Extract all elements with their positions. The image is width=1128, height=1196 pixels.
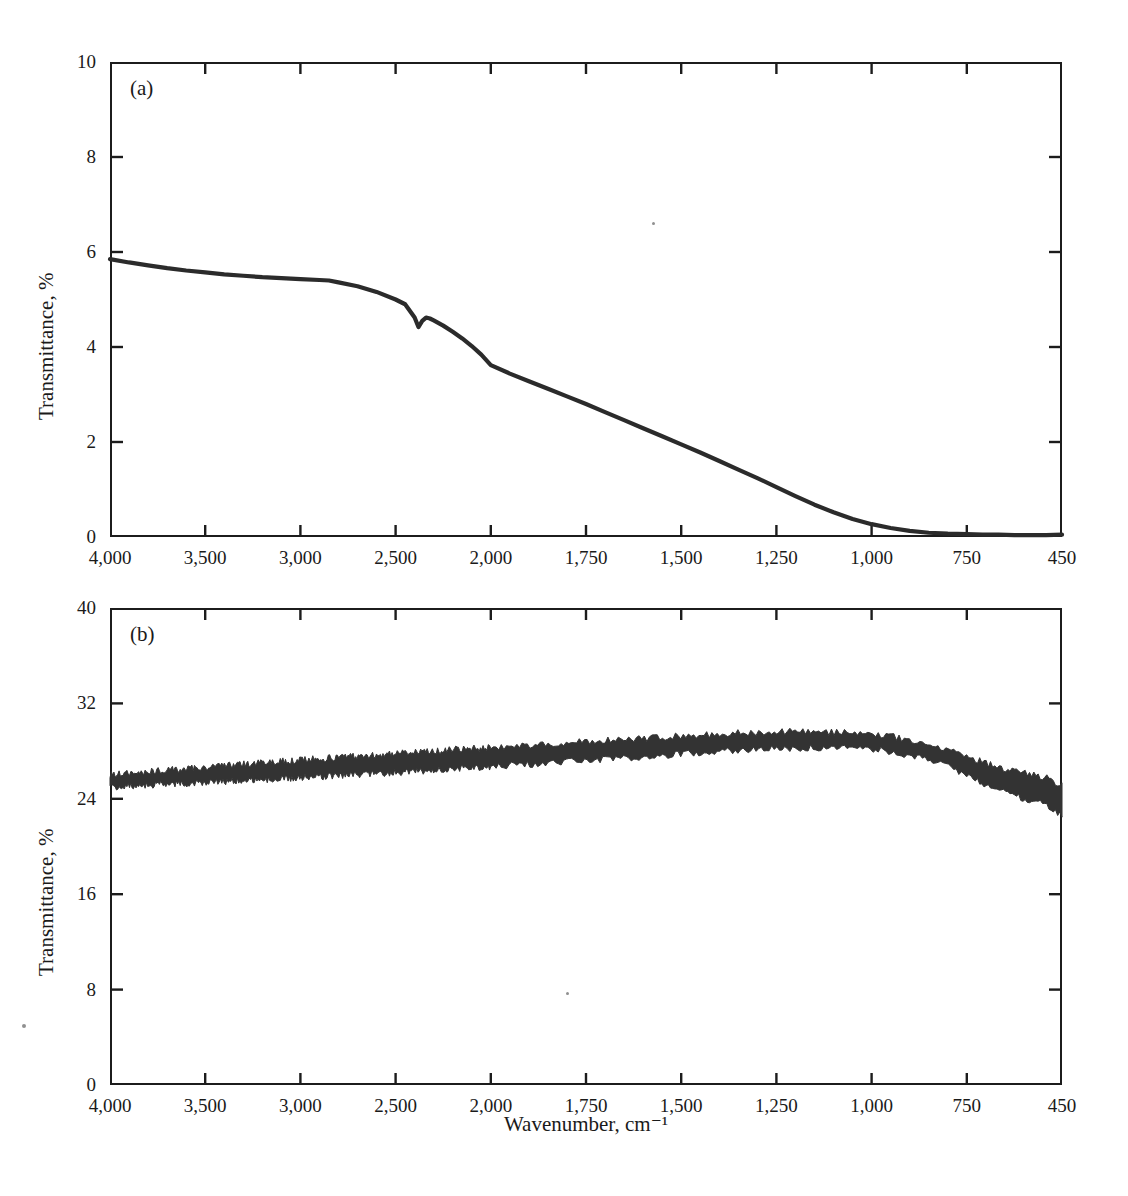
y-tick-label: 40 — [0, 597, 96, 619]
x-tick-label: 450 — [1048, 1095, 1077, 1117]
y-tick-label: 2 — [0, 431, 96, 453]
x-tick-label: 3,500 — [184, 1095, 227, 1117]
y-tick-label: 24 — [0, 788, 96, 810]
y-tick-label: 8 — [0, 979, 96, 1001]
panel-b: (b) Transmittance, % 4,0003,5003,0002,50… — [0, 546, 1128, 1196]
y-tick-label: 32 — [0, 692, 96, 714]
y-tick-label: 8 — [0, 146, 96, 168]
y-tick-label: 6 — [0, 241, 96, 263]
x-tick-label: 1,000 — [850, 1095, 893, 1117]
x-tick-label: 3,000 — [279, 1095, 322, 1117]
x-tick-label: 1,250 — [755, 1095, 798, 1117]
x-tick-label: 750 — [953, 1095, 982, 1117]
y-tick-label: 10 — [0, 51, 96, 73]
y-tick-label: 16 — [0, 883, 96, 905]
y-tick-label: 0 — [0, 526, 96, 548]
x-tick-label: 2,500 — [374, 1095, 417, 1117]
panel-b-data-trace — [110, 728, 1062, 817]
ir-spectra-figure: (a) Transmittance, % 4,0003,5003,0002,50… — [0, 0, 1128, 1196]
panel-a-data-trace — [110, 259, 1062, 535]
y-tick-label: 0 — [0, 1074, 96, 1096]
panel-a-trace-layer — [0, 0, 1128, 592]
x-tick-label: 4,000 — [89, 1095, 132, 1117]
panel-a: (a) Transmittance, % 4,0003,5003,0002,50… — [0, 0, 1128, 592]
x-axis-title: Wavenumber, cm⁻¹ — [504, 1112, 668, 1137]
y-tick-label: 4 — [0, 336, 96, 358]
